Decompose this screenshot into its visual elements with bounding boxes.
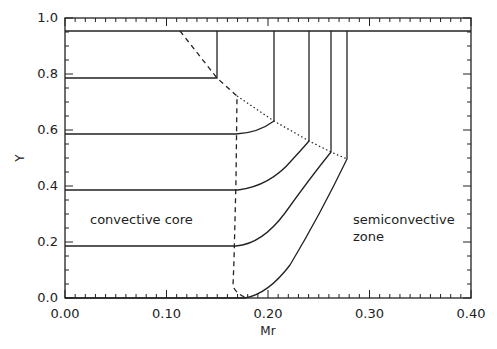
profile-3 — [65, 31, 309, 190]
axis-ticks — [65, 18, 471, 298]
y-tick-labels: 0.0 0.2 0.4 0.6 0.8 1.0 — [37, 10, 58, 305]
plot-frame — [65, 18, 471, 298]
annotation-zone: zone — [353, 229, 384, 244]
x-tick-labels: 0.00 0.10 0.20 0.30 0.40 — [51, 306, 486, 321]
y-tick-label: 0.0 — [37, 290, 58, 305]
y-axis-label: Y — [13, 154, 27, 163]
annotation-convective-core: convective core — [90, 212, 193, 227]
convective-core-boundary — [180, 31, 247, 298]
solid-curves — [65, 31, 471, 298]
x-tick-label: 0.20 — [254, 306, 283, 321]
x-tick-label: 0.10 — [152, 306, 181, 321]
y-tick-label: 0.8 — [37, 66, 58, 81]
x-tick-label: 0.30 — [355, 306, 384, 321]
y-tick-label: 0.2 — [37, 234, 58, 249]
annotation-semiconvective: semiconvective — [353, 212, 455, 227]
x-tick-label: 0.40 — [457, 306, 486, 321]
x-tick-label: 0.00 — [51, 306, 80, 321]
profile-5 — [65, 31, 347, 298]
profile-2 — [65, 31, 274, 134]
chart: 0.0 0.2 0.4 0.6 0.8 1.0 0.00 0.10 0.20 0… — [0, 0, 497, 349]
y-tick-label: 1.0 — [37, 10, 58, 25]
y-tick-label: 0.6 — [37, 122, 58, 137]
y-tick-label: 0.4 — [37, 178, 58, 193]
x-axis-label: Mr — [260, 324, 275, 338]
profile-1 — [65, 31, 217, 78]
